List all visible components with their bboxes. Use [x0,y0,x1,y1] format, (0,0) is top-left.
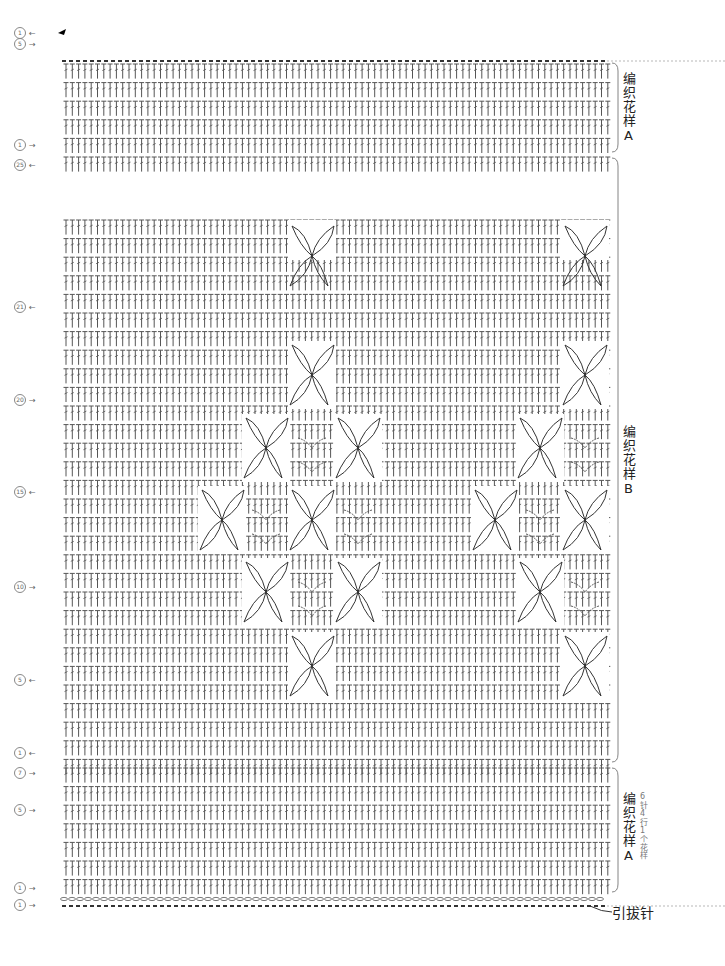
row-direction-arrow: ← [29,749,36,758]
crochet-chart [0,0,725,966]
row-number: 5 [14,38,26,50]
row-number: 20 [14,394,26,406]
row-direction-arrow: → [29,40,36,49]
row-number: 1 [14,139,26,151]
row-direction-arrow: ← [29,488,36,497]
row-marker: 1→ [14,882,36,894]
row-number: 21 [14,301,26,313]
section-note-bottom: 6针4行1个花样 [637,792,648,859]
row-direction-arrow: → [29,769,36,778]
section-label-bottom: 编织花样A [619,792,638,864]
row-marker: 21← [14,301,36,313]
row-number: 25 [14,159,26,171]
row-number: 5 [14,674,26,686]
row-direction-arrow: → [29,396,36,405]
row-marker: 5→ [14,804,36,816]
row-number: 15 [14,486,26,498]
row-marker: 1→ [14,139,36,151]
section-label-top: 编织花样A [619,72,638,144]
row-number: 1 [14,882,26,894]
row-number: 5 [14,804,26,816]
row-marker: 10→ [14,581,36,593]
row-marker: 7→ [14,767,36,779]
slip-stitch-label: 引拔针 [612,902,654,922]
row-direction-arrow: → [29,141,36,150]
section-label-middle: 编织花样B [619,425,638,497]
row-marker: 25← [14,159,36,171]
row-direction-arrow: → [29,901,36,910]
row-marker: 5← [14,674,36,686]
row-marker: 1→ [14,899,36,911]
row-marker: 1← [14,747,36,759]
row-direction-arrow: ← [29,676,36,685]
stitch-grid [0,0,725,966]
row-marker: 20→ [14,394,36,406]
row-direction-arrow: → [29,884,36,893]
row-direction-arrow: ← [29,303,36,312]
row-direction-arrow: → [29,583,36,592]
row-direction-arrow: ← [29,29,36,38]
row-number: 1 [14,747,26,759]
row-number: 1 [14,899,26,911]
row-direction-arrow: ← [29,161,36,170]
row-number: 7 [14,767,26,779]
row-direction-arrow: → [29,806,36,815]
row-number: 10 [14,581,26,593]
row-marker: 5→ [14,38,36,50]
row-marker: 15← [14,486,36,498]
